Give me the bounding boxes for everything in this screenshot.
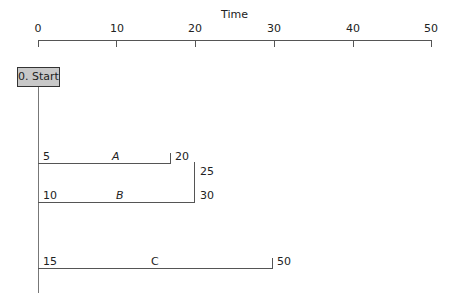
tick-label-50: 50 [424,23,438,35]
axis-tick-30 [274,40,275,47]
activity-b-start-label: 10 [43,190,57,202]
activity-c-bar [38,268,273,269]
axis-tick-0 [38,40,39,47]
axis-tick-50 [431,40,432,47]
start-node: 0. Start [17,67,60,87]
start-trunk-line [38,87,39,293]
activity-a-end-label: 20 [175,151,189,163]
activity-c-end-tick [272,258,273,269]
activity-a-start-label: 5 [43,151,50,163]
tick-label-30: 30 [267,23,281,35]
activity-a-bar [38,163,171,164]
tick-label-20: 20 [188,23,202,35]
tick-label-40: 40 [346,23,360,35]
axis-tick-40 [353,40,354,47]
axis-tick-10 [116,40,117,47]
activity-b-slack-line [194,162,195,203]
activity-a-end-tick [170,153,171,164]
activity-a-name: A [112,151,120,163]
activity-b-name: B [116,190,124,202]
activity-c-start-label: 15 [43,256,57,268]
activity-b-end-label: 30 [200,190,214,202]
axis-title: Time [221,9,248,21]
time-axis-line [38,40,432,41]
activity-c-end-label: 50 [277,256,291,268]
axis-tick-20 [195,40,196,47]
tick-label-10: 10 [110,23,124,35]
activity-b-bar [38,202,195,203]
tick-label-0: 0 [35,23,42,35]
activity-b-extra-label: 25 [200,166,214,178]
activity-c-name: C [151,256,159,268]
